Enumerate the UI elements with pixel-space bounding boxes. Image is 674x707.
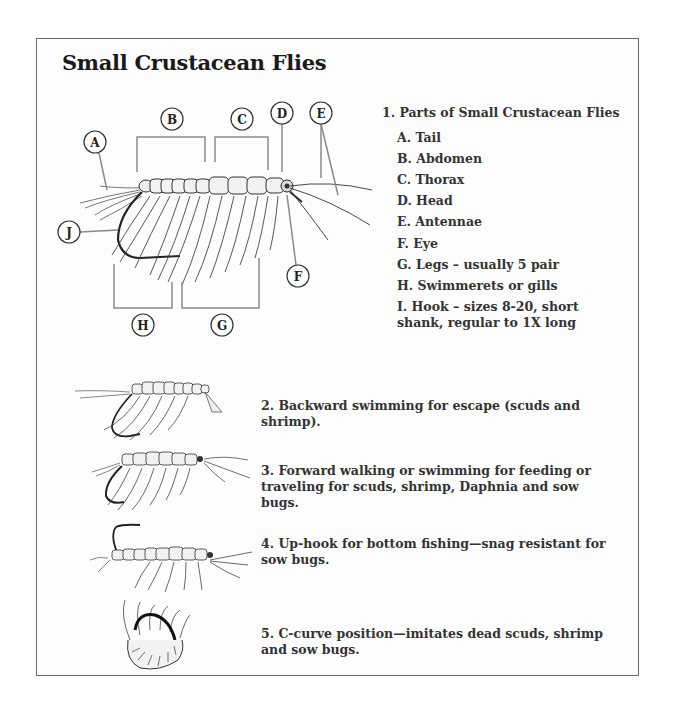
caption-c-curve: 5. C-curve position—imitates dead scuds,… xyxy=(261,626,606,658)
svg-text:E: E xyxy=(316,107,325,121)
hook-shape xyxy=(118,192,180,258)
fly-forward-walking xyxy=(92,452,250,510)
caption-line: shrimp). xyxy=(261,414,606,430)
fly-up-hook xyxy=(90,525,252,592)
fly-c-curve xyxy=(123,600,190,669)
main-fly-diagram: A B C D E J F H G xyxy=(58,102,372,336)
callout-C: C xyxy=(231,108,253,130)
callout-F: F xyxy=(287,265,309,287)
svg-text:B: B xyxy=(167,113,177,127)
legend-item-hook-cont: shank, regular to 1X long xyxy=(397,315,576,331)
svg-text:D: D xyxy=(277,107,287,121)
legend-item-legs: G. Legs – usually 5 pair xyxy=(397,257,559,273)
caption-line: 4. Up-hook for bottom fishing—snag resis… xyxy=(261,536,606,552)
eye-dot xyxy=(285,184,290,189)
svg-text:J: J xyxy=(65,226,72,240)
legend-header: 1. Parts of Small Crustacean Flies xyxy=(382,105,620,120)
callout-A: A xyxy=(84,131,106,153)
caption-line: 3. Forward walking or swimming for feedi… xyxy=(261,463,606,479)
fly-backward-swimming xyxy=(75,382,222,440)
legend-item-tail: A. Tail xyxy=(397,130,441,146)
svg-text:F: F xyxy=(294,270,303,284)
legend-item-hook: I. Hook – sizes 8-20, short xyxy=(397,299,579,315)
caption-forward-walking: 3. Forward walking or swimming for feedi… xyxy=(261,463,606,511)
legend-item-head: D. Head xyxy=(397,193,453,209)
caption-line: 2. Backward swimming for escape (scuds a… xyxy=(261,398,606,414)
caption-line: sow bugs. xyxy=(261,552,606,568)
callout-G: G xyxy=(211,314,233,336)
caption-up-hook: 4. Up-hook for bottom fishing—snag resis… xyxy=(261,536,606,568)
caption-line: and sow bugs. xyxy=(261,642,606,658)
svg-text:H: H xyxy=(137,319,148,333)
callout-H: H xyxy=(132,314,154,336)
legend-item-thorax: C. Thorax xyxy=(397,172,464,188)
caption-line: 5. C-curve position—imitates dead scuds,… xyxy=(261,626,606,642)
callout-J: J xyxy=(58,221,80,243)
callout-B: B xyxy=(161,108,183,130)
caption-backward-swimming: 2. Backward swimming for escape (scuds a… xyxy=(261,398,606,430)
svg-text:C: C xyxy=(237,113,247,127)
callout-E: E xyxy=(310,102,332,124)
legend-item-eye: F. Eye xyxy=(397,236,438,252)
svg-text:A: A xyxy=(89,136,100,150)
svg-text:G: G xyxy=(217,319,227,333)
legend-item-antennae: E. Antennae xyxy=(397,214,482,230)
legend-item-swimmerets: H. Swimmerets or gills xyxy=(397,278,557,294)
callout-D: D xyxy=(271,102,293,124)
caption-line: traveling for scuds, shrimp, Daphnia and… xyxy=(261,479,606,511)
legend-item-abdomen: B. Abdomen xyxy=(397,151,482,167)
